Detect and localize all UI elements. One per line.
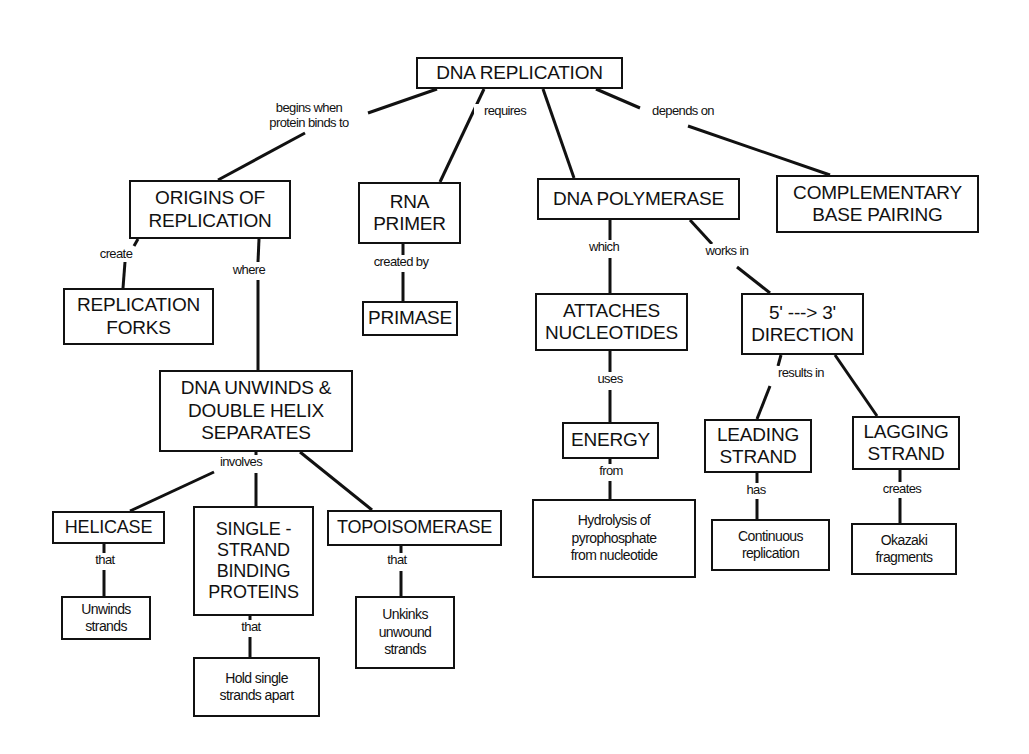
link-creates: creates (875, 482, 929, 497)
link-works-in: works in (696, 244, 758, 259)
node-leading-strand: LEADING STRAND (704, 419, 812, 473)
node-unwinds-strands: Unwinds strands (61, 596, 151, 640)
node-replication-forks: REPLICATION FORKS (63, 288, 214, 345)
link-uses: uses (591, 372, 629, 387)
connector-line (543, 89, 574, 178)
concept-map-canvas: DNA REPLICATION ORIGINS OF REPLICATION R… (0, 0, 1029, 754)
link-from: from (593, 464, 629, 479)
link-requires: requires (474, 104, 536, 119)
node-hold-single-strands-apart: Hold single strands apart (193, 657, 320, 717)
link-depends-on: depends on (642, 104, 724, 119)
node-attaches-nucleotides: ATTACHES NUCLEOTIDES (535, 293, 688, 351)
connector-line (134, 239, 138, 246)
link-begins-when: begins when protein binds to (253, 101, 365, 131)
node-okazaki-fragments: Okazaki fragments (851, 523, 957, 575)
node-dna-replication: DNA REPLICATION (416, 57, 623, 89)
connector-line (596, 89, 640, 108)
connector-line (123, 262, 125, 288)
link-where: where (226, 263, 272, 278)
node-primase: PRIMASE (362, 301, 458, 336)
node-energy: ENERGY (562, 422, 659, 459)
connector-line (690, 220, 712, 244)
link-create: create (90, 247, 142, 262)
node-unkinks-unwound-strands: Unkinks unwound strands (355, 596, 455, 669)
node-hydrolysis: Hydrolysis of pyrophosphate from nucleot… (532, 499, 696, 578)
connector-line (300, 452, 372, 510)
connector-line (368, 89, 437, 113)
node-helicase: HELICASE (52, 511, 165, 544)
connector-line (835, 355, 877, 416)
link-that-ssb: that (234, 620, 268, 635)
node-dna-polymerase: DNA POLYMERASE (537, 178, 740, 220)
connector-line (688, 126, 830, 175)
link-that-topoisomerase: that (380, 553, 414, 568)
node-dna-unwinds: DNA UNWINDS & DOUBLE HELIX SEPARATES (159, 370, 353, 452)
node-direction: 5' ---> 3' DIRECTION (741, 293, 864, 355)
node-complementary-base-pairing: COMPLEMENTARY BASE PAIRING (776, 175, 979, 233)
connector-line (737, 267, 770, 293)
node-lagging-strand: LAGGING STRAND (852, 416, 960, 470)
node-single-strand-binding-proteins: SINGLE - STRAND BINDING PROTEINS (193, 506, 314, 616)
connector-line (440, 89, 484, 182)
node-rna-primer: RNA PRIMER (358, 182, 461, 244)
link-created-by: created by (364, 255, 438, 270)
node-origins-of-replication: ORIGINS OF REPLICATION (129, 180, 291, 239)
link-has: has (741, 483, 771, 498)
link-involves: involves (212, 455, 270, 470)
node-topoisomerase: TOPOISOMERASE (327, 510, 502, 546)
link-which: which (581, 240, 627, 255)
connector-line (258, 239, 259, 262)
connector-line (757, 386, 770, 419)
link-results-in: results in (768, 366, 834, 381)
node-continuous-replication: Continuous replication (711, 519, 830, 571)
link-that-helicase: that (88, 553, 122, 568)
connector-line (218, 133, 305, 180)
